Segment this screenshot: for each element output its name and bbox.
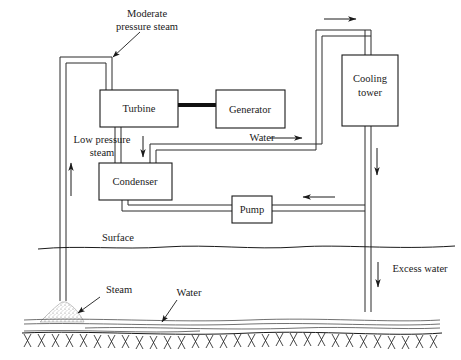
condenser-label: Condenser [113, 176, 158, 187]
tower-top-inlet-stub [365, 30, 371, 55]
cooling-tower-label-line2: tower [358, 87, 382, 98]
turbine-exhaust-pipe [115, 127, 121, 163]
ground-surface-line [38, 246, 455, 249]
cooling-tower-label-line1: Cooling [353, 73, 388, 84]
low-pressure-steam-label-line1: Low pressure [74, 134, 131, 145]
pump-label: Pump [240, 204, 265, 215]
water-callout-leader [162, 300, 177, 322]
bedrock-hatching [22, 332, 442, 349]
steam-ground-label: Steam [106, 284, 132, 295]
steam-callout-leader [78, 297, 100, 313]
cooling-tower-box[interactable]: Cooling tower [342, 55, 398, 126]
diagram-canvas: Turbine Generator Condenser Pump Cooling… [0, 0, 461, 360]
tower-downcomer-pipe [365, 126, 371, 312]
moderate-steam-label-line2: pressure steam [116, 21, 178, 32]
water-flow-label: Water [250, 132, 275, 143]
generator-box[interactable]: Generator [216, 90, 285, 128]
turbine-box[interactable]: Turbine [100, 90, 178, 127]
water-ground-label: Water [177, 287, 202, 298]
condenser-box[interactable]: Condenser [99, 163, 172, 200]
turbine-label: Turbine [123, 103, 156, 114]
surface-label: Surface [102, 232, 134, 243]
moderate-steam-label-line1: Moderate [127, 8, 168, 19]
pump-box[interactable]: Pump [232, 196, 272, 223]
aquifer-water-layer [24, 319, 440, 332]
excess-water-label: Excess water [392, 263, 448, 274]
low-pressure-steam-label-line2: steam [90, 147, 115, 158]
generator-label: Generator [229, 104, 271, 115]
geothermal-plant-diagram: Turbine Generator Condenser Pump Cooling… [0, 0, 461, 360]
moderate-steam-leader [113, 32, 140, 57]
